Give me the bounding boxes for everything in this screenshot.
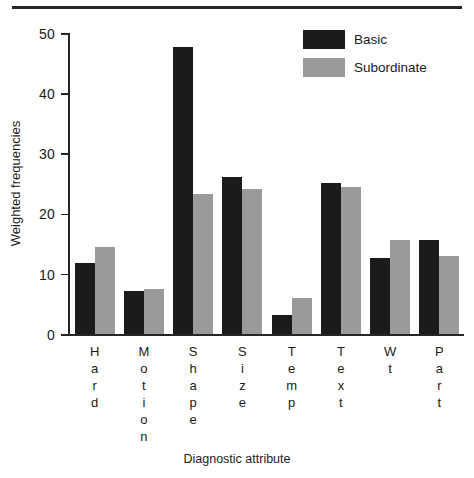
x-axis-line [68, 334, 464, 336]
bar-group [218, 33, 267, 334]
x-tick-label-char: t [119, 377, 168, 394]
x-tick-label-char: P [415, 343, 464, 360]
y-tick-label: 10 [39, 268, 55, 282]
x-tick-label-char: r [70, 377, 119, 394]
y-tick: 0 [61, 334, 68, 336]
x-tick-label-char: S [218, 343, 267, 360]
legend-label-subordinate: Subordinate [354, 60, 427, 75]
x-tick-label-char: h [169, 360, 218, 377]
y-tick-label: 20 [39, 207, 55, 221]
x-tick-label-char: a [169, 377, 218, 394]
x-tick-label-char: r [415, 377, 464, 394]
x-tick-label-motion: Motion [119, 343, 168, 453]
y-tick: 20 [61, 214, 68, 216]
x-tick-label-shape: Shape [169, 343, 218, 453]
bar-group [119, 33, 168, 334]
x-tick-label-char: m [267, 377, 316, 394]
x-tick-label-char: p [267, 394, 316, 411]
legend-item-subordinate: Subordinate [303, 58, 427, 77]
x-axis-tick-labels: HardMotionShapeSizeTempTextWtPart [70, 343, 464, 453]
x-tick-label-char: e [267, 360, 316, 377]
x-tick-label-char: T [267, 343, 316, 360]
x-tick-label-char: x [316, 377, 365, 394]
legend-label-basic: Basic [354, 32, 387, 47]
x-tick-label-part: Part [415, 343, 464, 453]
figure: Weighted frequencies 01020304050 HardMot… [0, 0, 474, 478]
bar-subordinate-text [341, 187, 361, 334]
y-tick: 30 [61, 153, 68, 155]
x-tick-label-size: Size [218, 343, 267, 453]
y-tick-label: 0 [47, 328, 55, 342]
bar-basic-wt [370, 258, 390, 334]
y-tick: 50 [61, 33, 68, 35]
legend-swatch-subordinate [303, 58, 345, 77]
x-tick-label-char: S [169, 343, 218, 360]
x-tick-label-char: a [415, 360, 464, 377]
x-axis-title-text: Diagnostic attribute [183, 452, 290, 466]
y-tick-label: 30 [39, 147, 55, 161]
bar-subordinate-shape [193, 194, 213, 334]
bar-subordinate-size [242, 189, 262, 334]
bar-basic-part [419, 240, 439, 334]
x-tick-label-char: i [218, 360, 267, 377]
bar-basic-motion [124, 291, 144, 334]
legend: Basic Subordinate [303, 30, 427, 86]
x-tick-label-char: W [366, 343, 415, 360]
bar-group [169, 33, 218, 334]
x-tick-label-char: o [119, 411, 168, 428]
bar-subordinate-temp [292, 298, 312, 334]
y-axis-title-text: Weighted frequencies [9, 121, 24, 247]
bar-subordinate-wt [390, 240, 410, 335]
x-tick-label-hard: Hard [70, 343, 119, 453]
x-axis-title: Diagnostic attribute [0, 452, 474, 466]
x-tick-label-char: M [119, 343, 168, 360]
x-tick-label-char: i [119, 394, 168, 411]
y-tick-label: 50 [39, 27, 55, 41]
x-tick-label-char: e [169, 411, 218, 428]
bar-basic-text [321, 183, 341, 334]
bar-basic-shape [173, 47, 193, 334]
x-tick-label-char: o [119, 360, 168, 377]
x-tick-label-temp: Temp [267, 343, 316, 453]
x-tick-label-char: a [70, 360, 119, 377]
bar-group [70, 33, 119, 334]
x-tick-label-char: e [316, 360, 365, 377]
x-tick-label-char: t [316, 394, 365, 411]
legend-swatch-basic [303, 30, 345, 49]
x-tick-label-char: e [218, 394, 267, 411]
x-tick-label-char: H [70, 343, 119, 360]
x-tick-label-char: d [70, 394, 119, 411]
bar-basic-size [222, 177, 242, 334]
y-tick: 40 [61, 93, 68, 95]
x-tick-label-wt: Wt [366, 343, 415, 453]
header-rule [12, 6, 462, 9]
bar-subordinate-hard [95, 247, 115, 334]
x-tick-label-char: t [415, 394, 464, 411]
y-tick-label: 40 [39, 87, 55, 101]
x-tick-label-text: Text [316, 343, 365, 453]
legend-item-basic: Basic [303, 30, 427, 49]
x-tick-label-char: z [218, 377, 267, 394]
x-tick-label-char: n [119, 428, 168, 445]
bar-subordinate-part [439, 256, 459, 334]
x-tick-label-char: T [316, 343, 365, 360]
y-axis-title: Weighted frequencies [7, 33, 25, 334]
bar-subordinate-motion [144, 289, 164, 334]
x-tick-label-char: t [366, 360, 415, 377]
y-tick: 10 [61, 274, 68, 276]
bar-basic-temp [272, 315, 292, 334]
x-tick-label-char: p [169, 394, 218, 411]
bar-basic-hard [75, 263, 95, 334]
